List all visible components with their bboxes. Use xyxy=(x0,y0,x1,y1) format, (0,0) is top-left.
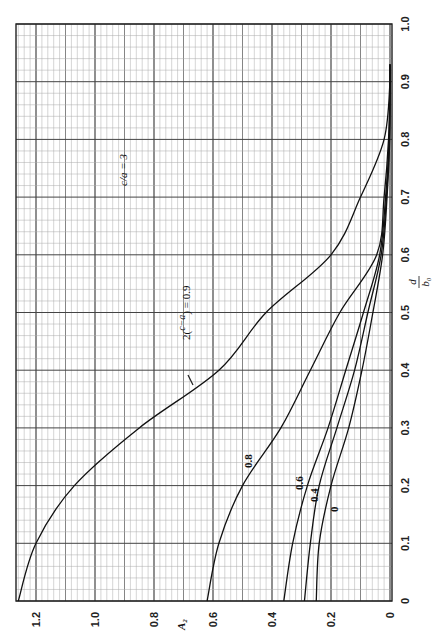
svg-text:b₀: b₀ xyxy=(419,277,431,287)
y-tick-label: 0.2 xyxy=(325,612,337,627)
param-note: c/a = 3 xyxy=(117,154,129,186)
svg-text:0.4: 0.4 xyxy=(308,488,320,502)
y-tick-label: 0.8 xyxy=(148,612,160,627)
curve-09-suffix: ) = 0.9 xyxy=(180,285,193,315)
x-tick-label: 0.5 xyxy=(399,305,411,320)
curve-0 xyxy=(316,64,390,601)
curve-09-prefix: 2( xyxy=(180,331,193,341)
param-annotation: c/a = 3 xyxy=(117,154,129,186)
x-tick-label: 0.3 xyxy=(399,420,411,435)
x-tick-label: 1.0 xyxy=(399,16,411,31)
svg-text:A₂: A₂ xyxy=(175,619,187,631)
x-tick-label: 0.1 xyxy=(399,536,411,551)
x-tick-label: 0.9 xyxy=(399,74,411,89)
curve-09-leader xyxy=(188,375,193,385)
x-tick-label: 0.6 xyxy=(399,247,411,262)
svg-text:d: d xyxy=(406,279,418,285)
y-tick-label: 1.0 xyxy=(89,612,101,627)
y-axis-label: A₂ xyxy=(175,619,187,631)
curve-label-0: 0 xyxy=(328,506,340,512)
curve-04 xyxy=(304,64,390,601)
svg-text:0.6: 0.6 xyxy=(293,476,305,490)
curves xyxy=(18,64,390,601)
curve-08 xyxy=(207,64,390,601)
curve-label-04: 0.4 xyxy=(308,488,320,502)
x-tick-label: 0.7 xyxy=(399,189,411,204)
curve-label-06: 0.6 xyxy=(293,476,305,490)
svg-text:0.8: 0.8 xyxy=(242,454,254,468)
graph-paper-grid xyxy=(16,24,392,601)
x-axis-label: d b₀ xyxy=(406,276,431,288)
curve-09-frac: c−a xyxy=(176,315,187,331)
y-tick-label: 1.2 xyxy=(30,612,42,627)
y-tick-label: 0 xyxy=(384,612,396,618)
x-tick-label: 0.8 xyxy=(399,132,411,147)
x-tick-label: 0 xyxy=(399,598,411,604)
x-tick-label: 0.4 xyxy=(399,362,411,378)
y-tick-label: 0.6 xyxy=(207,612,219,627)
curve-label-08: 0.8 xyxy=(242,454,254,468)
x-tick-label: 0.2 xyxy=(399,478,411,493)
svg-text:0: 0 xyxy=(328,506,340,512)
rotated-line-chart: 00.10.20.30.40.50.60.70.80.91.000.20.40.… xyxy=(0,0,438,635)
curve-2ca09 xyxy=(18,64,390,601)
y-tick-label: 0.4 xyxy=(266,611,278,627)
axis-ticks: 00.10.20.30.40.50.60.70.80.91.000.20.40.… xyxy=(30,16,411,627)
